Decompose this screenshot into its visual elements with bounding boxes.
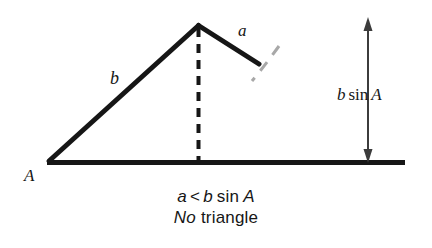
caption-b: b bbox=[203, 187, 213, 206]
side-b-label: b bbox=[110, 69, 119, 87]
side-a-line bbox=[199, 26, 260, 65]
side-b-line bbox=[49, 26, 199, 162]
geometry-figure: b a A bsinA a<bsinA Notriangle bbox=[0, 0, 432, 248]
caption-A: A bbox=[243, 187, 255, 206]
caption-triangle: triangle bbox=[201, 208, 258, 227]
height-label: bsinA bbox=[337, 86, 382, 103]
side-a-label: a bbox=[238, 22, 247, 39]
caption-line-conclusion: Notriangle bbox=[0, 207, 432, 228]
arrowhead-up bbox=[364, 17, 373, 31]
caption-line-inequality: a<bsinA bbox=[0, 186, 432, 207]
caption-operator: < bbox=[190, 187, 200, 206]
height-label-b: b bbox=[337, 85, 346, 104]
height-label-A: A bbox=[371, 85, 381, 104]
caption-block: a<bsinA Notriangle bbox=[0, 186, 432, 228]
caption-sin: sin bbox=[217, 187, 239, 206]
caption-a: a bbox=[177, 187, 187, 206]
caption-no: No bbox=[174, 208, 196, 227]
height-label-sin: sin bbox=[349, 85, 369, 104]
angle-a-label: A bbox=[24, 167, 34, 184]
